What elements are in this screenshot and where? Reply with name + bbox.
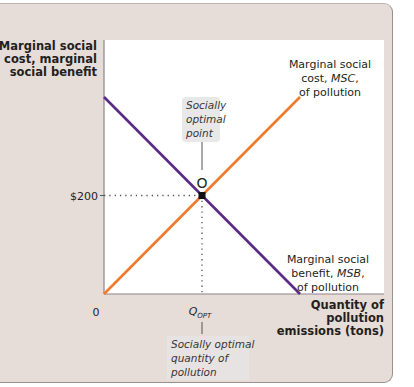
optimal-point-label: O	[196, 175, 207, 191]
svg-text:QOPT: QOPT	[189, 305, 212, 320]
x-axis-label-line-1: Quantity of	[311, 298, 385, 312]
msc-label-line-2: cost, MSC,	[301, 72, 358, 85]
q-symbol: Q	[189, 305, 198, 318]
y-tick-label-200: $200	[70, 190, 98, 203]
y-axis-label-line-1: Marginal social	[0, 39, 97, 53]
optimal-point-callout-line-2: optimal	[186, 113, 226, 125]
x-axis-label-line-2: pollution	[326, 311, 384, 325]
origin-label: 0	[93, 306, 100, 319]
optimal-quantity-callout-line-2: quantity of	[171, 352, 231, 364]
msc-label-line-1: Marginal social	[289, 58, 371, 71]
msb-label-line-3: of pollution	[297, 281, 359, 294]
optimal-point-callout-line-3: point	[185, 127, 214, 139]
optimal-point-marker	[199, 192, 206, 199]
msb-label: Marginal social benefit, MSB, of polluti…	[287, 253, 369, 294]
y-axis-label-line-3: social benefit	[10, 65, 98, 79]
x-axis-label-line-3: emissions (tons)	[277, 324, 384, 338]
optimal-quantity-callout-line-3: pollution	[170, 366, 217, 378]
optimal-point-callout-line-1: Socially	[186, 99, 227, 111]
msb-label-line-2: benefit, MSB,	[291, 267, 364, 280]
x-tick-label-qopt: QOPT	[189, 305, 212, 320]
q-subscript: OPT	[197, 312, 212, 320]
optimal-quantity-callout-line-1: Socially optimal	[171, 338, 254, 350]
msc-label-line-3: of pollution	[299, 86, 361, 99]
y-axis-label-line-2: cost, marginal	[4, 52, 97, 66]
chart: Marginal social cost, marginal social be…	[0, 0, 414, 387]
msb-label-line-1: Marginal social	[287, 253, 369, 266]
